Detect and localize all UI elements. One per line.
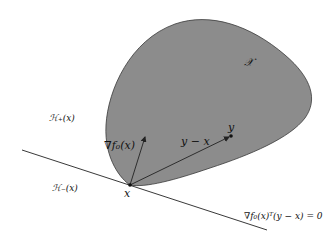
diagram-svg: 𝒳 ℋ₊(x) ℋ₋(x) x y ∇f₀(x) y − x ∇f₀(x)ᵀ(y… [0, 0, 336, 245]
point-y-dot [229, 134, 233, 138]
h-plus-label: ℋ₊(x) [49, 113, 75, 123]
point-x-label: x [124, 187, 131, 200]
convex-set-region [106, 20, 312, 186]
hyperplane-label: ∇f₀(x)ᵀ(y − x) = 0 [244, 211, 323, 221]
point-y-label: y [227, 121, 235, 134]
h-minus-label: ℋ₋(x) [52, 183, 78, 193]
diagram-canvas: 𝒳 ℋ₊(x) ℋ₋(x) x y ∇f₀(x) y − x ∇f₀(x)ᵀ(y… [0, 0, 336, 245]
gradient-label: ∇f₀(x) [104, 139, 135, 152]
direction-label: y − x [180, 135, 210, 148]
